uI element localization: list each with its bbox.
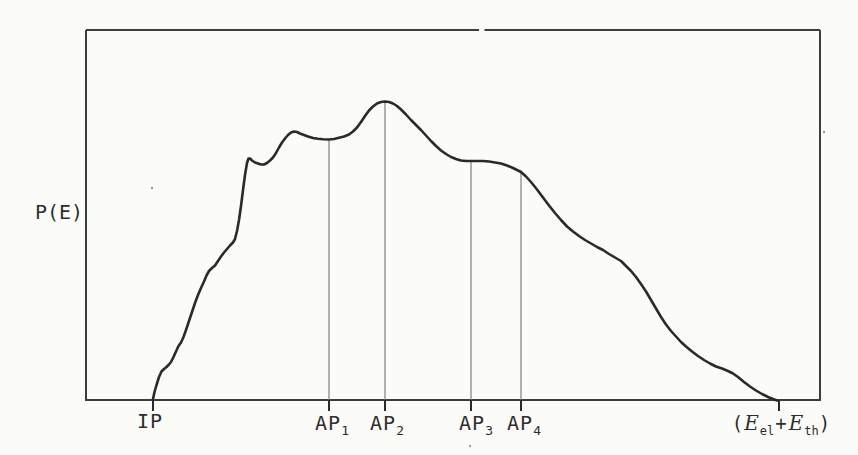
xaxis-label-ap2: AP2	[370, 413, 404, 433]
xaxis-label-emax: (Eel+Eth)	[732, 413, 830, 433]
pe-curve	[153, 102, 777, 401]
xaxis-label-ap3: AP3	[459, 413, 493, 433]
scan-speck-1	[469, 445, 471, 447]
xaxis-label-ip: IP	[137, 411, 163, 431]
ap2-base: AP	[370, 411, 396, 435]
e-th-symbol: E	[788, 411, 805, 435]
ap1-base: AP	[315, 411, 341, 435]
paren-close: )	[819, 412, 830, 434]
ap4-base: AP	[507, 411, 533, 435]
ap3-base: AP	[459, 411, 485, 435]
plot-frame	[86, 30, 820, 400]
y-axis-label: P(E)	[35, 202, 83, 222]
e-el-symbol: E	[743, 411, 760, 435]
e-el-subscript: el	[760, 424, 774, 438]
figure-canvas: P(E) IP AP1 AP2 AP3 AP4 (Eel+Eth)	[0, 0, 858, 455]
scan-speck-0	[151, 187, 153, 189]
scan-speck-2	[823, 131, 825, 133]
ap4-subscript: 4	[533, 423, 541, 438]
ap2-subscript: 2	[396, 423, 404, 438]
ip-text: IP	[137, 409, 163, 433]
paren-open: (	[732, 412, 743, 434]
e-th-subscript: th	[804, 424, 818, 438]
xaxis-label-ap4: AP4	[507, 413, 541, 433]
ap3-subscript: 3	[485, 423, 493, 438]
ap1-subscript: 1	[341, 423, 349, 438]
figure-svg	[0, 0, 858, 455]
xaxis-label-ap1: AP1	[315, 413, 349, 433]
plus-sign: +	[774, 412, 787, 434]
